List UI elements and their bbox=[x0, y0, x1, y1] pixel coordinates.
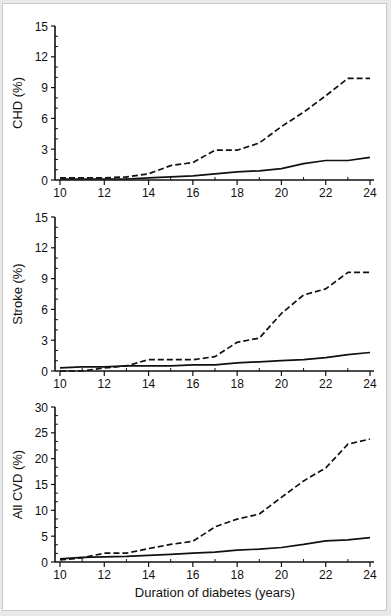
solid-series-line bbox=[60, 538, 370, 559]
x-tick-label: 18 bbox=[230, 377, 244, 391]
x-tick-label: 14 bbox=[142, 377, 156, 391]
dashed-series-line bbox=[60, 78, 370, 177]
y-tick-label: 9 bbox=[41, 81, 48, 95]
y-tick-label: 15 bbox=[35, 478, 49, 492]
x-tick-label: 20 bbox=[275, 377, 289, 391]
dashed-series-line bbox=[60, 272, 370, 371]
y-tick-label: 9 bbox=[41, 272, 48, 286]
x-tick-label: 18 bbox=[230, 186, 244, 200]
y-tick-label: 10 bbox=[35, 504, 49, 518]
x-tick-label: 22 bbox=[319, 568, 333, 582]
x-tick-label: 24 bbox=[363, 377, 377, 391]
x-tick-label: 20 bbox=[275, 568, 289, 582]
y-axis-title: All CVD (%) bbox=[10, 450, 25, 519]
x-tick-label: 22 bbox=[319, 186, 333, 200]
x-tick-label: 12 bbox=[98, 186, 112, 200]
solid-series-line bbox=[60, 353, 370, 368]
y-tick-label: 12 bbox=[35, 50, 49, 64]
y-tick-label: 20 bbox=[35, 452, 49, 466]
y-tick-label: 3 bbox=[41, 334, 48, 348]
y-tick-label: 12 bbox=[35, 241, 49, 255]
x-tick-label: 16 bbox=[186, 186, 200, 200]
x-tick-label: 20 bbox=[275, 186, 289, 200]
x-tick-label: 14 bbox=[142, 186, 156, 200]
x-tick-label: 24 bbox=[363, 186, 377, 200]
chart-canvas: 036912151012141618202224CHD (%)036912151… bbox=[0, 0, 391, 616]
x-tick-label: 10 bbox=[53, 568, 67, 582]
x-tick-label: 12 bbox=[98, 377, 112, 391]
x-tick-label: 16 bbox=[186, 377, 200, 391]
solid-series-line bbox=[60, 157, 370, 179]
y-tick-label: 5 bbox=[41, 530, 48, 544]
y-tick-label: 6 bbox=[41, 112, 48, 126]
x-tick-label: 16 bbox=[186, 568, 200, 582]
y-tick-label: 6 bbox=[41, 303, 48, 317]
y-tick-label: 15 bbox=[35, 211, 49, 225]
x-tick-label: 22 bbox=[319, 377, 333, 391]
y-tick-label: 0 bbox=[41, 556, 48, 570]
x-tick-label: 14 bbox=[142, 568, 156, 582]
x-tick-label: 10 bbox=[53, 186, 67, 200]
y-tick-label: 0 bbox=[41, 174, 48, 188]
y-axis-title: CHD (%) bbox=[10, 77, 25, 129]
y-tick-label: 0 bbox=[41, 365, 48, 379]
x-tick-label: 12 bbox=[98, 568, 112, 582]
x-tick-label: 18 bbox=[230, 568, 244, 582]
x-tick-label: 10 bbox=[53, 377, 67, 391]
y-axis-title: Stroke (%) bbox=[10, 263, 25, 324]
y-tick-label: 30 bbox=[35, 401, 49, 415]
x-tick-label: 24 bbox=[363, 568, 377, 582]
y-tick-label: 25 bbox=[35, 426, 49, 440]
y-tick-label: 15 bbox=[35, 20, 49, 34]
x-axis-title: Duration of diabetes (years) bbox=[135, 585, 295, 600]
y-tick-label: 3 bbox=[41, 143, 48, 157]
